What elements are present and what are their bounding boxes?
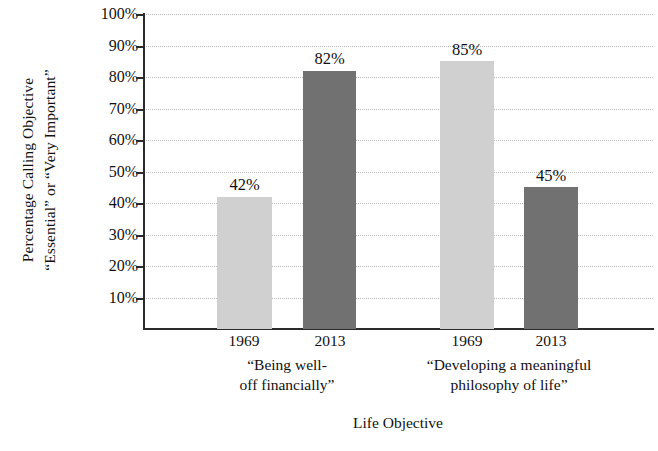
- x-tick-label-group2-2013: 2013: [536, 333, 567, 349]
- x-group-label-1-line-2: off financially”: [240, 375, 335, 395]
- y-tick-mark: [136, 140, 145, 142]
- gridline: [143, 46, 653, 47]
- y-tick-mark: [136, 235, 145, 237]
- plot-area: 42% 82% 85% 45%: [143, 14, 653, 329]
- y-tick-mark: [136, 14, 145, 16]
- x-axis-title: Life Objective: [143, 415, 653, 431]
- gridline: [143, 77, 653, 78]
- bar-group2-1969: 85%: [440, 61, 494, 329]
- y-tick-label: 10%: [76, 290, 138, 306]
- gridline: [143, 172, 653, 173]
- x-tick-label-group2-1969: 1969: [452, 333, 483, 349]
- y-tick-label: 30%: [76, 227, 138, 243]
- x-group-label-1: “Being well- off financially”: [240, 355, 335, 396]
- y-tick-mark: [136, 266, 145, 268]
- y-tick-label: 20%: [76, 258, 138, 274]
- x-tick-label-group1-1969: 1969: [229, 333, 260, 349]
- y-axis-title-line-1: Percentage Calling Objective: [17, 69, 39, 271]
- x-group-label-2-line-1: “Developing a meaningful: [427, 355, 591, 375]
- bar-value-label: 82%: [314, 51, 344, 68]
- gridline: [143, 14, 653, 15]
- bar-value-label: 42%: [229, 177, 259, 194]
- y-tick-mark: [136, 46, 145, 48]
- y-axis-tick-labels: 100% 90% 80% 70% 60% 50% 40% 30% 20% 10%: [74, 0, 138, 451]
- x-tick-label-group1-2013: 2013: [315, 333, 346, 349]
- y-tick-label: 50%: [76, 164, 138, 180]
- y-tick-mark: [136, 298, 145, 300]
- y-tick-label: 100%: [76, 6, 138, 22]
- y-axis-title-line-2: “Essential” or “Very Important”: [39, 69, 61, 271]
- y-axis-title: Percentage Calling Objective “Essential”…: [0, 0, 78, 340]
- y-tick-label: 40%: [76, 195, 138, 211]
- bar-group1-2013: 82%: [303, 71, 356, 329]
- y-tick-mark: [136, 203, 145, 205]
- bar-chart-figure: Percentage Calling Objective “Essential”…: [0, 0, 658, 451]
- bar-group1-1969: 42%: [217, 197, 272, 329]
- gridline: [143, 109, 653, 110]
- x-group-label-2: “Developing a meaningful philosophy of l…: [427, 355, 591, 396]
- y-tick-mark: [136, 109, 145, 111]
- bar-value-label: 45%: [536, 168, 566, 185]
- y-tick-label: 70%: [76, 101, 138, 117]
- x-group-label-2-line-2: philosophy of life”: [427, 375, 591, 395]
- y-tick-label: 90%: [76, 38, 138, 54]
- bar-group2-2013: 45%: [524, 187, 578, 329]
- bar-value-label: 85%: [452, 42, 482, 59]
- y-tick-mark: [136, 172, 145, 174]
- y-tick-label: 80%: [76, 69, 138, 85]
- gridline: [143, 140, 653, 141]
- x-group-label-1-line-1: “Being well-: [240, 355, 335, 375]
- x-axis-labels: 1969 2013 1969 2013 “Being well- off fin…: [143, 331, 653, 451]
- y-tick-label: 60%: [76, 132, 138, 148]
- y-tick-mark: [136, 77, 145, 79]
